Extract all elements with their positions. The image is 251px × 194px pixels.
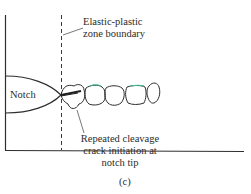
grain-5 — [147, 83, 160, 103]
boundary-label: Elastic-plastic zone boundary — [83, 16, 145, 40]
crack-label-line3: notch tip — [79, 157, 161, 169]
grain-3 — [105, 86, 125, 106]
grain-2 — [85, 85, 105, 105]
grain-4 — [126, 86, 146, 105]
crack-leader-line — [77, 110, 84, 133]
boundary-leader-line — [63, 28, 83, 35]
grain-chain — [61, 83, 160, 108]
crack-label: Repeated cleavage crack initiation at no… — [79, 133, 161, 169]
boundary-label-line2: zone boundary — [83, 28, 145, 40]
boundary-label-line1: Elastic-plastic — [83, 16, 145, 28]
crack-label-line1: Repeated cleavage — [79, 133, 161, 145]
panel-label: (c) — [119, 176, 131, 188]
grain-1 — [61, 85, 85, 109]
crack-label-line2: crack initiation at — [79, 145, 161, 157]
notch-label: Notch — [10, 89, 36, 101]
